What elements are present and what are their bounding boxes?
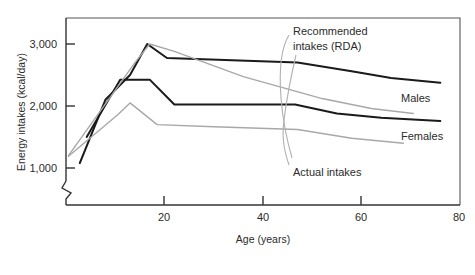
y-tick-label-2000: 2,000	[29, 100, 57, 112]
energy-intakes-line-chart: 3,000 2,000 1,000 20 40 60 80 Age (years…	[0, 0, 475, 275]
chart-figure: 3,000 2,000 1,000 20 40 60 80 Age (years…	[0, 0, 475, 275]
x-tick-label-20: 20	[158, 211, 170, 223]
y-axis	[62, 18, 71, 205]
actual-intakes-annotation: Actual intakes	[293, 166, 362, 178]
rda-annotation-line2: intakes (RDA)	[293, 40, 361, 52]
x-tick-label-40: 40	[257, 211, 269, 223]
y-axis-title: Energy intakes (kcal/day)	[15, 53, 27, 171]
series-label-males: Males	[401, 92, 431, 104]
x-tick-label-60: 60	[355, 211, 367, 223]
series-label-females: Females	[401, 130, 444, 142]
series-line-3	[68, 103, 403, 156]
series-group	[68, 44, 440, 163]
y-tick-label-3000: 3,000	[29, 38, 57, 50]
x-axis-title: Age (years)	[236, 233, 290, 245]
rda-annotation-line1: Recommended	[293, 25, 368, 37]
x-tick-label-80: 80	[453, 211, 465, 223]
annotation-leaders	[280, 35, 296, 165]
x-axis-ticks	[164, 196, 361, 205]
y-tick-label-1000: 1,000	[29, 162, 57, 174]
